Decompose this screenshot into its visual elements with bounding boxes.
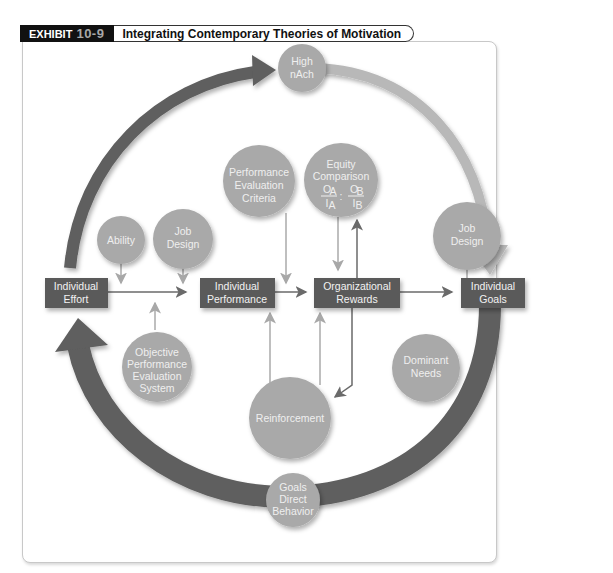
label-goals-1: Individual — [471, 280, 515, 292]
label-high-nach-2: nAch — [290, 68, 314, 80]
svg-text::: : — [340, 190, 343, 202]
svg-text:B: B — [356, 185, 363, 197]
label-gdb-1: Goals — [279, 481, 306, 493]
label-equity-2: Comparison — [313, 170, 370, 182]
label-dominant-needs-2: Needs — [411, 367, 441, 379]
svg-text:A: A — [329, 185, 336, 197]
label-high-nach-1: High — [291, 55, 313, 67]
label-job-design-left-1: Job — [175, 225, 192, 237]
label-pec-1: Performance — [229, 166, 289, 178]
label-performance-1: Individual — [215, 280, 259, 292]
label-job-design-left-2: Design — [167, 238, 200, 250]
label-gdb-2: Direct — [279, 493, 307, 505]
label-goals-2: Goals — [479, 293, 506, 305]
label-pec-3: Criteria — [242, 192, 276, 204]
label-rewards-2: Rewards — [336, 293, 377, 305]
label-reinforcement: Reinforcement — [256, 412, 324, 424]
motivation-diagram: High nAch Performance Evaluation Criteri… — [0, 0, 613, 573]
label-effort-1: Individual — [54, 280, 98, 292]
svg-text:B: B — [355, 199, 362, 211]
label-opes-3: Evaluation — [132, 370, 181, 382]
label-opes-2: Performance — [127, 358, 187, 370]
label-dominant-needs-1: Dominant — [404, 354, 449, 366]
svg-text:A: A — [328, 199, 335, 211]
label-performance-2: Performance — [207, 293, 267, 305]
label-effort-2: Effort — [64, 293, 89, 305]
label-opes-4: System — [139, 382, 174, 394]
label-ability: Ability — [107, 234, 136, 246]
label-gdb-3: Behavior — [272, 505, 314, 517]
label-opes-1: Objective — [135, 346, 179, 358]
label-job-design-right-1: Job — [459, 222, 476, 234]
label-job-design-right-2: Design — [451, 235, 484, 247]
label-pec-2: Evaluation — [234, 179, 283, 191]
label-rewards-1: Organizational — [323, 280, 391, 292]
label-equity-1: Equity — [326, 158, 356, 170]
